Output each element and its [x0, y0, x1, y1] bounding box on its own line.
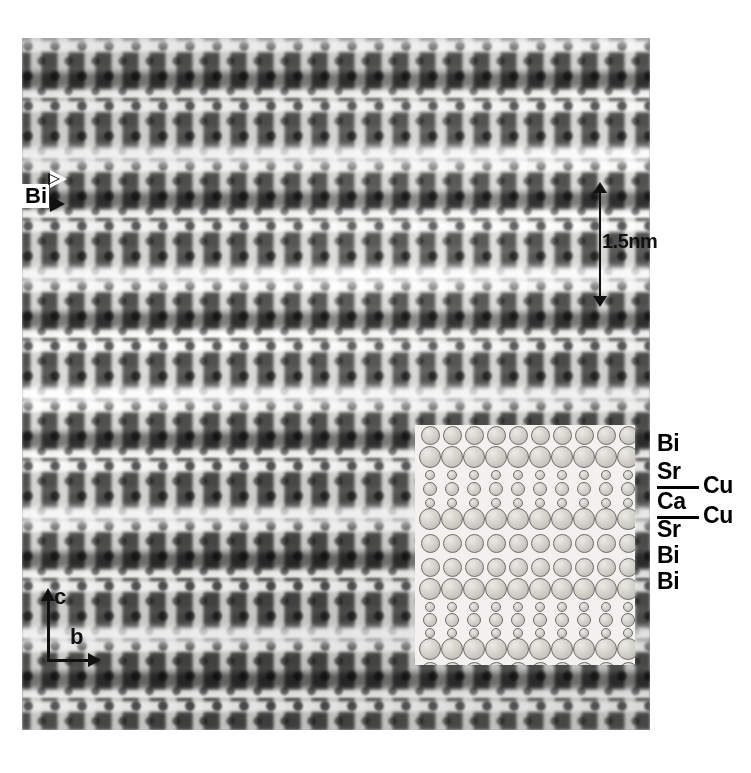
atom-sr [573, 638, 595, 660]
atom-cu [599, 482, 613, 496]
crystal-axes-indicator: c b [26, 588, 106, 668]
bi-marker-label: Bi [22, 184, 49, 208]
atom-sr [617, 446, 635, 468]
layer-label-cu: Cu [703, 474, 733, 497]
atom-grid [415, 425, 635, 665]
atom-o [623, 470, 633, 480]
atom-bi [487, 662, 506, 666]
atom-bi [465, 426, 484, 445]
atom-bi [529, 578, 551, 600]
atom-cu [511, 613, 525, 627]
scale-bar: 1.5nm [592, 182, 652, 307]
atom-bi [553, 426, 572, 445]
atom-bi [421, 662, 440, 666]
atom-sr [465, 534, 484, 553]
atom-sr [509, 534, 528, 553]
atom-bi [617, 578, 635, 600]
atom-bi [421, 426, 440, 445]
atom-sr [619, 534, 636, 553]
atom-cu [467, 482, 481, 496]
structure-model-inset [415, 425, 635, 665]
atom-ca [595, 508, 617, 530]
atom-bi [485, 578, 507, 600]
atom-cu [423, 613, 437, 627]
layer-label-bi: Bi [657, 570, 679, 593]
atom-o [447, 470, 457, 480]
atom-bi [443, 558, 462, 577]
layer-label-sr: Sr [657, 518, 681, 541]
atom-sr [551, 638, 573, 660]
atom-bi [553, 662, 572, 666]
scale-bar-shaft [599, 190, 601, 299]
atom-sr [507, 446, 529, 468]
layer-label-bi: Bi [657, 544, 679, 567]
atom-o [447, 628, 457, 638]
atom-bi [419, 578, 441, 600]
atom-bi [597, 558, 616, 577]
atom-sr [507, 638, 529, 660]
atom-sr [441, 446, 463, 468]
atom-bi [553, 558, 572, 577]
atom-cu [489, 482, 503, 496]
atom-o [469, 498, 479, 508]
atom-sr [487, 534, 506, 553]
atom-ca [529, 508, 551, 530]
atom-o [425, 602, 435, 612]
atom-bi [531, 662, 550, 666]
atom-o [447, 602, 457, 612]
atom-sr [421, 534, 440, 553]
atom-cu [577, 482, 591, 496]
atom-bi [575, 558, 594, 577]
atom-o [623, 628, 633, 638]
atom-o [469, 602, 479, 612]
atom-bi [575, 662, 594, 666]
atom-cu [467, 613, 481, 627]
atom-sr [529, 446, 551, 468]
triangle-right-outline-icon [50, 170, 67, 188]
atom-bi [443, 426, 462, 445]
atom-o [579, 602, 589, 612]
atom-ca [551, 508, 573, 530]
atom-bi [573, 578, 595, 600]
atom-o [535, 498, 545, 508]
c-axis-label: c [54, 584, 66, 610]
atom-o [425, 628, 435, 638]
atom-o [425, 470, 435, 480]
atom-bi [507, 578, 529, 600]
atom-ca [419, 508, 441, 530]
atom-o [557, 628, 567, 638]
atom-bi [509, 558, 528, 577]
atom-bi [575, 426, 594, 445]
atom-sr [573, 446, 595, 468]
atom-cu [555, 613, 569, 627]
atom-ca [617, 508, 635, 530]
atom-sr [595, 446, 617, 468]
atom-sr [419, 638, 441, 660]
atom-o [557, 602, 567, 612]
atom-bi [551, 578, 573, 600]
atom-cu [423, 482, 437, 496]
atom-cu [555, 482, 569, 496]
atom-o [469, 470, 479, 480]
atom-bi [487, 426, 506, 445]
atom-sr [485, 446, 507, 468]
atom-o [579, 628, 589, 638]
atom-bi [487, 558, 506, 577]
atom-ca [441, 508, 463, 530]
atom-bi [441, 578, 463, 600]
atom-o [425, 498, 435, 508]
layer-label-column: BiSrCuCaCuSrBiBi [657, 420, 751, 590]
atom-sr [595, 638, 617, 660]
atom-cu [533, 613, 547, 627]
atom-o [557, 498, 567, 508]
atom-o [513, 498, 523, 508]
atom-ca [485, 508, 507, 530]
atom-sr [419, 446, 441, 468]
atom-cu [621, 482, 635, 496]
layer-label-bi: Bi [657, 432, 679, 455]
atom-bi [531, 558, 550, 577]
triangle-right-solid-icon [50, 196, 65, 212]
atom-o [491, 602, 501, 612]
atom-bi [463, 578, 485, 600]
atom-cu [511, 482, 525, 496]
